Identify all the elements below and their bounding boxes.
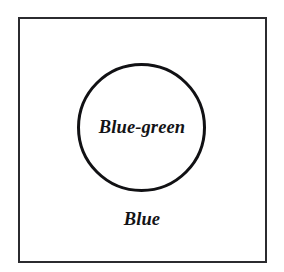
diagram-canvas: Blue-green Blue bbox=[0, 0, 284, 272]
outer-region-label: Blue bbox=[0, 210, 284, 229]
inner-region-label: Blue-green bbox=[0, 118, 284, 137]
